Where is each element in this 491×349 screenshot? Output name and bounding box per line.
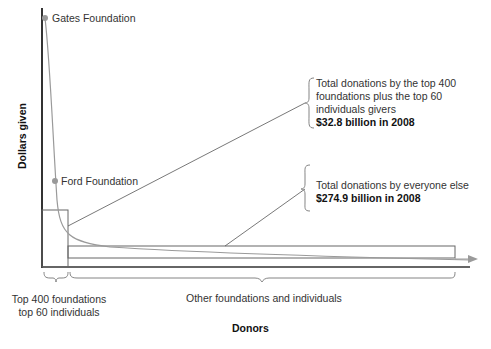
top-group-bracket (44, 272, 68, 282)
top-note-value: $32.8 billion in 2008 (316, 116, 456, 129)
x-axis-label: Donors (232, 322, 269, 335)
ford-label: Ford Foundation (61, 175, 138, 188)
top-note-line1: Total donations by the top 400 (316, 77, 456, 90)
other-note-bracket (301, 165, 310, 211)
top-group-box (42, 210, 68, 267)
top-group-line2: top 60 individuals (4, 306, 114, 319)
gates-label: Gates Foundation (52, 12, 135, 25)
top-group-label: Top 400 foundations top 60 individuals (4, 293, 114, 319)
ford-dot (52, 178, 58, 184)
other-leader-line (225, 189, 305, 246)
top-note: Total donations by the top 400 foundatio… (316, 77, 456, 129)
other-group-bracket (70, 272, 455, 282)
y-axis-label: Dollars given (16, 96, 28, 176)
donation-curve (45, 18, 470, 260)
top-group-line1: Top 400 foundations (4, 293, 114, 306)
x-axis-arrow-icon (468, 255, 478, 263)
top-leader-line (68, 103, 305, 226)
other-note-line1: Total donations by everyone else (316, 179, 469, 192)
top-note-bracket (305, 78, 314, 128)
gates-dot (42, 15, 48, 21)
other-group-label: Other foundations and individuals (186, 292, 342, 305)
top-note-line3: individuals givers (316, 103, 456, 116)
other-note-value: $274.9 billion in 2008 (316, 192, 469, 205)
other-note: Total donations by everyone else $274.9 … (316, 179, 469, 205)
top-note-line2: foundations plus the top 60 (316, 90, 456, 103)
